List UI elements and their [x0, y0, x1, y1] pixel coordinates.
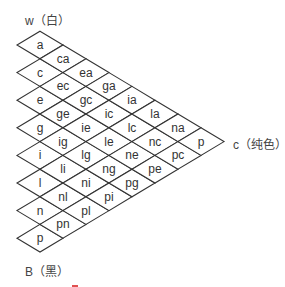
cell-label: nc: [149, 135, 162, 149]
cell-label: pe: [148, 162, 162, 176]
cell-label: pn: [56, 217, 69, 231]
cell-label: ia: [127, 93, 137, 107]
cell-label: ga: [102, 79, 116, 93]
cell-label: pi: [104, 190, 113, 204]
cell-label: c: [37, 66, 43, 80]
cell-label: ca: [57, 52, 70, 66]
cell-label: ea: [79, 66, 93, 80]
cell-label: g: [37, 121, 44, 135]
cell-label: ig: [58, 135, 67, 149]
cell-label: lg: [81, 148, 90, 162]
cell-label: a: [37, 38, 44, 52]
cell-label: ie: [81, 121, 91, 135]
cell-label: p: [198, 135, 205, 149]
cell-label: e: [37, 93, 44, 107]
cell-label: ng: [102, 162, 115, 176]
cell-label: n: [37, 204, 44, 218]
cell-label: ic: [105, 107, 114, 121]
cell-label: nl: [58, 190, 67, 204]
cell-label: ge: [56, 107, 70, 121]
cell-label: la: [150, 107, 160, 121]
cell-label: gc: [80, 93, 93, 107]
cell-label: le: [104, 135, 114, 149]
cell-label: l: [39, 176, 42, 190]
cell-label: na: [171, 121, 185, 135]
cell-label: ec: [57, 79, 70, 93]
cell-label: i: [39, 148, 42, 162]
color-triangle-grid: acegilnpcaecgeiglinlpneagcielgniplgaicle…: [0, 0, 285, 287]
cell-label: pl: [81, 204, 90, 218]
cell-label: li: [60, 162, 65, 176]
cell-label: ne: [125, 148, 139, 162]
cell-label: pg: [125, 176, 138, 190]
cell-label: lc: [128, 121, 137, 135]
cell-label: p: [37, 231, 44, 245]
cell-label: pc: [172, 148, 185, 162]
cell-label: ni: [81, 176, 90, 190]
